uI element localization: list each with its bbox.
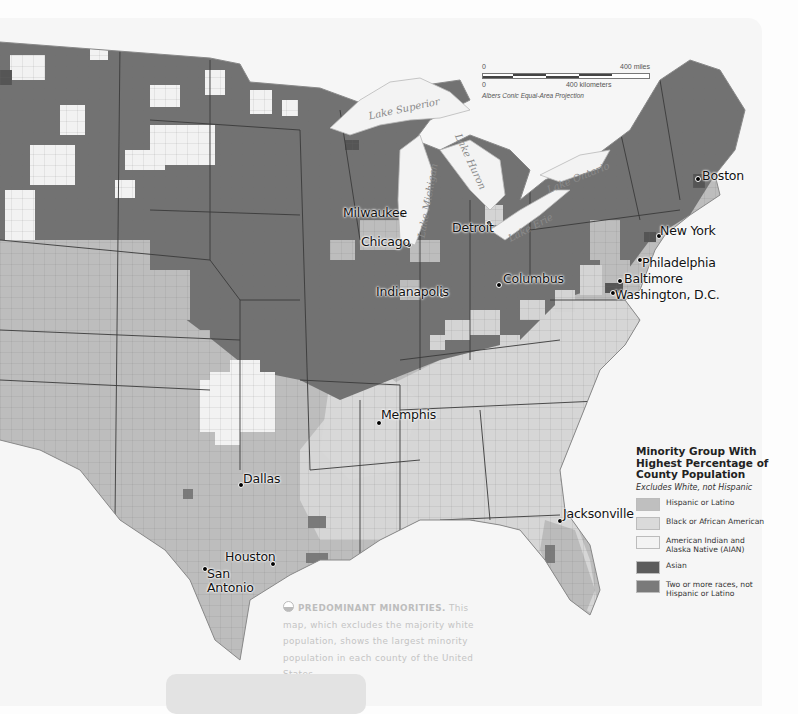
caption-text: This map, which excludes the majority wh… [283,603,474,679]
city-dot-boston [695,176,701,182]
city-label-washington-dc: Washington, D.C. [615,288,720,302]
scale-miles-end: 400 miles [620,63,650,70]
city-label-new-york: New York [660,224,716,238]
scale-bar-graphic [482,73,650,79]
caption-heading: PREDOMINANT MINORITIES. [298,603,446,613]
legend-title: Minority Group With Highest Percentage o… [636,446,776,481]
legend-swatch-hispanic [636,498,660,511]
legend-label-hispanic: Hispanic or Latino [666,498,734,508]
city-label-chicago: Chicago [361,235,410,249]
city-dot-columbus [496,282,502,288]
map-caption: PREDOMINANT MINORITIES. This map, which … [283,600,493,683]
city-label-jacksonville: Jacksonville [563,507,634,521]
city-label-detroit: Detroit [452,221,494,235]
scale-km-start: 0 [482,81,486,88]
city-label-boston: Boston [702,169,744,183]
legend-item-two-or-more: Two or more races, not Hispanic or Latin… [636,580,776,599]
city-label-baltimore: Baltimore [624,272,683,286]
legend-swatch-two-or-more [636,580,660,593]
legend-subtitle: Excludes White, not Hispanic [636,483,776,492]
city-label-houston: Houston [225,550,276,564]
legend-item-asian: Asian [636,561,776,574]
projection-note: Albers Conic Equal-Area Projection [482,92,650,99]
legend-item-black: Black or African American [636,517,776,530]
legend-label-black: Black or African American [666,517,764,527]
legend-label-asian: Asian [666,561,687,571]
city-label-dallas: Dallas [243,472,280,486]
city-label-milwaukee: Milwaukee [343,206,407,220]
legend-swatch-aian [636,536,660,549]
scale-bar: 0 400 miles 0 400 kilometers Albers Coni… [482,63,650,99]
bottom-tab-button[interactable] [166,674,366,714]
map-legend: Minority Group With Highest Percentage o… [636,446,776,599]
legend-item-aian: American Indian and Alaska Native (AIAN) [636,536,776,555]
legend-swatch-asian [636,561,660,574]
legend-label-aian: American Indian and Alaska Native (AIAN) [666,536,766,555]
legend-item-hispanic: Hispanic or Latino [636,498,776,511]
legend-label-two-or-more: Two or more races, not Hispanic or Latin… [666,580,766,599]
city-label-memphis: Memphis [381,408,436,422]
scale-km-end: 400 kilometers [566,81,612,88]
half-circle-icon [283,601,294,612]
legend-swatch-black [636,517,660,530]
city-label-san-antonio: San Antonio [207,567,257,595]
city-label-philadelphia: Philadelphia [642,256,716,270]
scale-miles-start: 0 [482,63,486,70]
city-label-columbus: Columbus [503,272,564,286]
city-dot-baltimore [617,278,623,284]
city-label-indianapolis: Indianapolis [376,285,449,299]
